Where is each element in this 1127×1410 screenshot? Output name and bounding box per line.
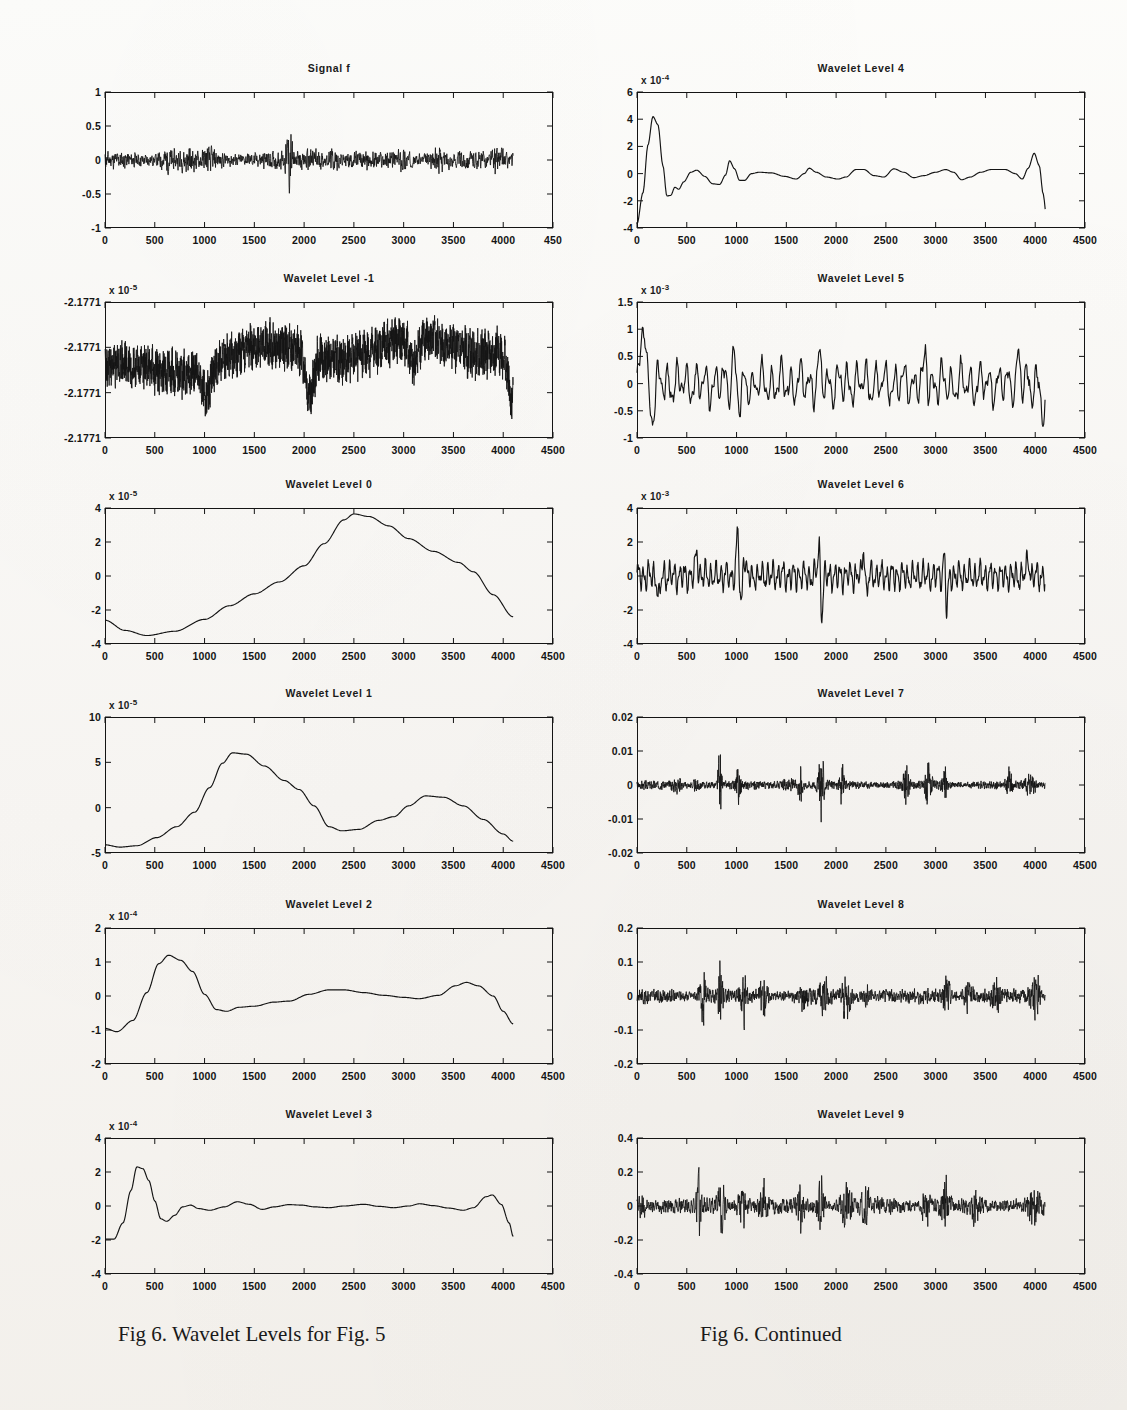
y-tick-label: 2 bbox=[95, 922, 101, 934]
x-tick-label: 4000 bbox=[1023, 1070, 1047, 1082]
y-tick-label: -2.1771 bbox=[64, 296, 101, 308]
plot-panel-wavelet-level-8: Wavelet Level 8-0.2-0.100.10.20500100015… bbox=[567, 896, 1125, 1092]
x-tick-label: 3000 bbox=[392, 1070, 416, 1082]
y-tick-label: 0.5 bbox=[86, 120, 101, 132]
data-trace bbox=[637, 116, 1045, 223]
x-tick-label: 2500 bbox=[874, 650, 898, 662]
x-tick-label: 3000 bbox=[924, 234, 948, 246]
x-tick-label: 2500 bbox=[342, 444, 366, 456]
x-tick-label: 3500 bbox=[973, 1280, 997, 1292]
x-tick-label: 1500 bbox=[242, 650, 266, 662]
plot-canvas-wavelet-level-0 bbox=[105, 508, 553, 644]
x-tick-label: 4500 bbox=[541, 444, 565, 456]
x-tick-label: 4500 bbox=[541, 1280, 565, 1292]
y-tick-label: 6 bbox=[627, 86, 633, 98]
x-tick-label: 2500 bbox=[342, 859, 366, 871]
y-tick-label: -2 bbox=[623, 604, 633, 616]
x-tick-label: 4000 bbox=[491, 1280, 515, 1292]
x-tick-label: 3500 bbox=[973, 1070, 997, 1082]
x-tick-label: 1500 bbox=[774, 1280, 798, 1292]
x-tick-label: 3000 bbox=[924, 1070, 948, 1082]
data-trace bbox=[637, 961, 1045, 1030]
x-tick-label: 4000 bbox=[491, 444, 515, 456]
x-tick-label: 500 bbox=[678, 234, 696, 246]
x-tick-label: 2000 bbox=[824, 1070, 848, 1082]
x-tick-label: 2000 bbox=[824, 1280, 848, 1292]
y-tick-label: 0 bbox=[95, 570, 101, 582]
x-tick-label: 4500 bbox=[1073, 650, 1097, 662]
figure-caption-left: Fig 6. Wavelet Levels for Fig. 5 bbox=[118, 1322, 385, 1347]
x-tick-label: 0 bbox=[102, 1280, 108, 1292]
plot-title-wavelet-level-6: Wavelet Level 6 bbox=[637, 478, 1085, 490]
plot-panel-wavelet-level-1: Wavelet Level 1x 10-5-505100500100015002… bbox=[35, 685, 593, 881]
x-tick-label: 4500 bbox=[1073, 859, 1097, 871]
x-tick-label: 4500 bbox=[541, 650, 565, 662]
y-tick-label: 4 bbox=[95, 1132, 101, 1144]
y-tick-label: 0.02 bbox=[612, 711, 633, 723]
y-tick-label: 2 bbox=[95, 1166, 101, 1178]
data-trace bbox=[105, 514, 513, 636]
x-tick-label: 4000 bbox=[491, 650, 515, 662]
plot-title-wavelet-level-7: Wavelet Level 7 bbox=[637, 687, 1085, 699]
x-tick-label: 4000 bbox=[1023, 859, 1047, 871]
plot-title-wavelet-level-minus-1: Wavelet Level -1 bbox=[105, 272, 553, 284]
x-tick-label: 1500 bbox=[774, 444, 798, 456]
y-tick-label: -0.2 bbox=[614, 1234, 633, 1246]
x-tick-label: 3500 bbox=[441, 1070, 465, 1082]
x-tick-label: 500 bbox=[678, 859, 696, 871]
y-tick-label: 0 bbox=[627, 570, 633, 582]
y-tick-label: 4 bbox=[627, 113, 633, 125]
x-tick-label: 500 bbox=[678, 444, 696, 456]
x-tick-label: 4500 bbox=[541, 1070, 565, 1082]
x-tick-label: 0 bbox=[102, 650, 108, 662]
x-tick-label: 2000 bbox=[292, 234, 316, 246]
x-tick-label: 2500 bbox=[342, 1070, 366, 1082]
data-trace bbox=[105, 753, 513, 847]
plot-canvas-wavelet-level-3 bbox=[105, 1138, 553, 1274]
plot-panel-wavelet-level-5: Wavelet Level 5x 10-3-1-0.500.511.505001… bbox=[567, 270, 1125, 466]
data-trace bbox=[105, 955, 513, 1031]
y-tick-label: 0 bbox=[95, 990, 101, 1002]
plot-title-wavelet-level-4: Wavelet Level 4 bbox=[637, 62, 1085, 74]
x-tick-label: 1500 bbox=[242, 234, 266, 246]
y-tick-label: -1 bbox=[623, 432, 633, 444]
x-tick-label: 1000 bbox=[192, 1070, 216, 1082]
plot-canvas-wavelet-level-minus-1 bbox=[105, 302, 553, 438]
plot-title-wavelet-level-8: Wavelet Level 8 bbox=[637, 898, 1085, 910]
plot-panel-wavelet-level-4: Wavelet Level 4x 10-4-4-2024605001000150… bbox=[567, 60, 1125, 256]
axis-exponent-wavelet-level-0: x 10-5 bbox=[109, 489, 137, 502]
axis-exponent-wavelet-level-6: x 10-3 bbox=[641, 489, 669, 502]
x-tick-label: 4000 bbox=[1023, 234, 1047, 246]
plot-canvas-wavelet-level-8 bbox=[637, 928, 1085, 1064]
x-tick-label: 4000 bbox=[491, 859, 515, 871]
x-tick-label: 1500 bbox=[774, 650, 798, 662]
x-tick-label: 3000 bbox=[924, 650, 948, 662]
x-tick-label: 0 bbox=[634, 444, 640, 456]
x-tick-label: 500 bbox=[678, 1070, 696, 1082]
plot-panel-wavelet-level-3: Wavelet Level 3x 10-4-4-2024050010001500… bbox=[35, 1106, 593, 1302]
x-tick-label: 0 bbox=[102, 234, 108, 246]
x-tick-label: 1000 bbox=[192, 234, 216, 246]
y-tick-label: 0.5 bbox=[618, 350, 633, 362]
x-tick-label: 450 bbox=[544, 234, 562, 246]
y-tick-label: 0.1 bbox=[618, 956, 633, 968]
x-tick-label: 3500 bbox=[973, 234, 997, 246]
x-tick-label: 0 bbox=[102, 859, 108, 871]
x-tick-label: 2500 bbox=[874, 444, 898, 456]
x-tick-label: 2500 bbox=[342, 1280, 366, 1292]
y-tick-label: -4 bbox=[91, 638, 101, 650]
plot-panel-wavelet-level-0: Wavelet Level 0x 10-5-4-2024050010001500… bbox=[35, 476, 593, 672]
y-tick-label: 2 bbox=[95, 536, 101, 548]
x-tick-label: 3000 bbox=[924, 1280, 948, 1292]
data-trace bbox=[105, 1167, 513, 1239]
plot-canvas-wavelet-level-6 bbox=[637, 508, 1085, 644]
x-tick-label: 3500 bbox=[973, 859, 997, 871]
x-tick-label: 2000 bbox=[824, 650, 848, 662]
x-tick-label: 2000 bbox=[292, 444, 316, 456]
x-tick-label: 4500 bbox=[541, 859, 565, 871]
axis-exponent-wavelet-level-5: x 10-3 bbox=[641, 283, 669, 296]
data-trace bbox=[637, 755, 1045, 823]
x-tick-label: 2000 bbox=[292, 650, 316, 662]
x-tick-label: 2000 bbox=[292, 1280, 316, 1292]
x-tick-label: 4500 bbox=[1073, 234, 1097, 246]
